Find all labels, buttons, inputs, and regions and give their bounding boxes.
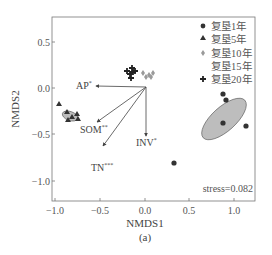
y-axis: 0.5 0.0 −0.5 −1.0 NMDS2	[9, 37, 55, 187]
x-axis-title: NMDS1	[126, 217, 163, 229]
x-tick-label: 0.5	[183, 205, 196, 216]
x-tick-label: −1.0	[46, 205, 64, 216]
legend-label-year5: 复垦5年	[211, 33, 246, 45]
legend-marker-circle	[201, 24, 206, 29]
vector-label-inv: INV*	[136, 137, 157, 148]
y-tick-label: 0.5	[38, 37, 51, 48]
x-tick-label: 0.0	[139, 205, 152, 216]
legend-label-year20: 复垦20年	[211, 73, 252, 85]
legend-label-year15: 复垦15年	[211, 60, 252, 72]
nmds-chart: 0.5 0.0 −0.5 −1.0 NMDS2 −1.0 −0.5 0.0 0.…	[0, 0, 272, 255]
legend-label-year10: 复垦10年	[211, 47, 252, 59]
x-axis: −1.0 −0.5 0.0 0.5 1.0 NMDS1 (a)	[46, 198, 240, 244]
y-tick-label: −1.0	[32, 176, 50, 187]
x-tick-label: 1.0	[228, 205, 241, 216]
x-tick-label: −0.5	[91, 205, 109, 216]
y-tick-label: 0.0	[38, 83, 51, 94]
stress-annotation: stress=0.082	[203, 183, 253, 194]
legend-label-year1: 复垦1年	[211, 20, 246, 32]
figure-caption: (a)	[139, 231, 152, 244]
y-tick-label: −0.5	[32, 129, 50, 140]
y-axis-title: NMDS2	[9, 90, 21, 127]
